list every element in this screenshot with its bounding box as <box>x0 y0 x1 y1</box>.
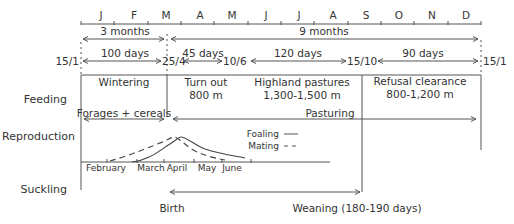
month-label: J <box>296 9 300 21</box>
refusal-label: Refusal clearance <box>373 75 466 87</box>
day-spans-row: 15/1 100 days 25/4 45 days 10/6 120 days… <box>55 47 506 67</box>
forages-label: Forages + cereals <box>77 107 172 119</box>
month-label: M <box>161 9 170 21</box>
month-label: N <box>428 9 436 21</box>
legend-mating-label: Mating <box>248 141 279 151</box>
wintering-label: Wintering <box>99 76 150 88</box>
month-label: A <box>196 9 204 21</box>
row-label-suckling: Suckling <box>21 183 67 196</box>
date-15-10: 15/10 <box>347 55 377 67</box>
date-start: 15/1 <box>55 55 79 67</box>
pasturing-label: Pasturing <box>305 107 354 119</box>
highland-altitude: 1,300-1,500 m <box>263 89 340 101</box>
repro-month-label: April <box>167 163 188 173</box>
repro-month-label: May <box>198 163 217 173</box>
month-label: F <box>131 9 137 21</box>
month-label: S <box>363 9 370 21</box>
date-10-6: 10/6 <box>223 55 247 67</box>
date-end: 15/1 <box>483 55 507 67</box>
duration-90-days: 90 days <box>402 47 443 59</box>
month-label: D <box>462 9 470 21</box>
row-label-reproduction: Reproduction <box>2 130 75 143</box>
season-span-row: 3 months 9 months <box>83 25 478 39</box>
duration-100-days: 100 days <box>101 47 149 59</box>
month-label: J <box>263 9 267 21</box>
turnout-altitude: 800 m <box>189 89 223 101</box>
winter-span-label: 3 months <box>100 25 150 37</box>
turnout-label: Turn out <box>184 76 228 88</box>
month-label: A <box>329 9 337 21</box>
refusal-altitude: 800-1,200 m <box>386 88 453 100</box>
month-label: O <box>395 9 403 21</box>
month-label: M <box>227 9 236 21</box>
summer-span-label: 9 months <box>299 25 349 37</box>
legend-foaling-label: Foaling <box>247 129 279 139</box>
mating-curve <box>110 137 225 161</box>
horse-annual-calendar-diagram: J F M A M J J A S O N D 3 months 9 month… <box>0 0 514 224</box>
legend: Foaling Mating <box>247 129 298 151</box>
highland-label: Highland pastures <box>254 76 350 88</box>
duration-45-days: 45 days <box>182 47 223 59</box>
row-label-feeding: Feeding <box>24 93 67 106</box>
repro-month-label: June <box>221 163 242 173</box>
duration-120-days: 120 days <box>274 47 322 59</box>
birth-label: Birth <box>159 202 184 214</box>
reproduction-section: Reproduction February March April May Ju… <box>2 129 330 173</box>
weaning-label: Weaning (180-190 days) <box>292 202 421 214</box>
foaling-curve <box>132 137 245 162</box>
month-label: J <box>98 9 102 21</box>
month-labels: J F M A M J J A S O N D <box>98 9 470 21</box>
repro-month-label: February <box>86 163 127 173</box>
repro-month-label: March <box>137 163 164 173</box>
